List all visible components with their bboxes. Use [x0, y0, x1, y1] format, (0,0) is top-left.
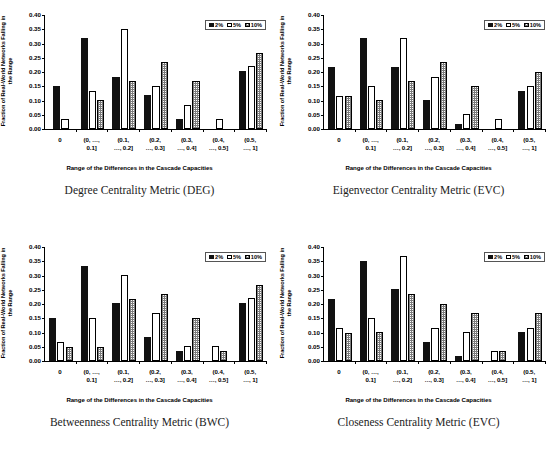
bar-groups	[45, 247, 267, 361]
bar	[121, 29, 128, 129]
bar	[49, 318, 56, 361]
gray-hatched-square-icon	[524, 255, 529, 260]
x-tick-label-line2: 0.1]	[76, 144, 108, 152]
bar	[345, 333, 352, 362]
y-tick-label: 0.00	[308, 126, 320, 132]
bar-group	[387, 15, 419, 129]
x-tick-label-line1: 0	[58, 368, 61, 375]
bar	[239, 71, 246, 129]
bar	[192, 81, 199, 129]
y-tick-label: 0.30	[308, 40, 320, 46]
x-tick-label: (0.1,…, 0.2]	[386, 368, 418, 384]
x-tick-label-line1: (0.1,	[117, 368, 129, 375]
x-tick-label: (0.4,…, 0.5]	[482, 136, 514, 152]
bar	[518, 91, 525, 129]
chart-caption: Closeness Centrality Metric (EVC)	[279, 416, 558, 428]
x-tick-label-line2: …, 0.5]	[203, 376, 235, 384]
chart-panel-evc: Fraction of Real-World Networks Falling …	[279, 0, 558, 232]
y-axis-ticks: 0.000.050.100.150.200.250.300.350.40	[296, 15, 320, 129]
bar-group	[324, 15, 356, 129]
x-tick-label-line1: (0.4,	[213, 136, 225, 143]
y-tick-mark	[321, 361, 324, 362]
bar	[535, 72, 542, 129]
bar	[376, 332, 383, 361]
x-tick-label-line2: …, 0.4]	[171, 144, 203, 152]
x-axis-title: Range of the Differences in the Cascade …	[0, 396, 279, 403]
x-tick-label-line1: (0.5,	[244, 368, 256, 375]
bar-group	[356, 15, 388, 129]
bar-group	[514, 247, 546, 361]
bar-group	[419, 247, 451, 361]
x-axis-ticks: 0(0, …,0.1](0.1,…, 0.2](0.2,…, 0.3](0.3,…	[44, 368, 266, 384]
x-tick-label-line1: (0.3,	[181, 368, 193, 375]
bar	[455, 356, 462, 361]
x-tick-label-line2: …, 0.2]	[386, 144, 418, 152]
x-tick-label-line1: (0.2,	[149, 368, 161, 375]
bar	[161, 294, 168, 361]
bar	[360, 38, 367, 129]
legend-label: 2%	[494, 254, 502, 260]
bar-group	[356, 247, 388, 361]
x-tick-label-line1: (0.5,	[523, 136, 535, 143]
bar	[53, 86, 60, 129]
bar	[81, 38, 88, 129]
y-tick-label: 0.05	[308, 112, 320, 118]
bar	[66, 347, 73, 361]
x-tick-label: (0.5,…, 1]	[513, 368, 545, 384]
bar-group	[451, 247, 483, 361]
bar	[408, 294, 415, 361]
bar	[61, 119, 68, 129]
y-tick-label: 0.10	[29, 329, 41, 335]
x-tick-label-line1: (0.2,	[428, 368, 440, 375]
x-tick-label: 0	[44, 368, 76, 384]
bar	[144, 95, 151, 129]
x-tick-label: (0.1,…, 0.2]	[107, 368, 139, 384]
y-tick-label: 0.25	[29, 55, 41, 61]
x-tick-label-line1: (0, …,	[84, 136, 100, 143]
y-tick-label: 0.25	[308, 55, 320, 61]
bar	[152, 86, 159, 129]
bar	[144, 337, 151, 361]
bar	[455, 124, 462, 129]
bar-group	[451, 15, 483, 129]
bar-group	[235, 247, 267, 361]
x-tick-label: (0.5,…, 1]	[234, 136, 266, 152]
legend-entry: 10%	[245, 254, 262, 260]
legend-entry: 10%	[524, 254, 541, 260]
x-tick-label-line1: (0.1,	[396, 368, 408, 375]
x-tick-label-line2: …, 0.2]	[386, 376, 418, 384]
legend-entry: 2%	[488, 254, 502, 260]
bar-groups	[324, 15, 546, 129]
bar-group	[172, 15, 204, 129]
x-tick-label-line1: (0.1,	[117, 136, 129, 143]
legend-label: 5%	[233, 254, 241, 260]
bar	[336, 96, 343, 129]
bar	[256, 53, 263, 129]
bar	[463, 332, 470, 361]
y-tick-label: 0.15	[308, 315, 320, 321]
x-tick-label: (0.3,…, 0.4]	[171, 368, 203, 384]
x-tick-label-line1: (0.3,	[181, 136, 193, 143]
y-tick-label: 0.00	[308, 358, 320, 364]
bar	[89, 318, 96, 361]
x-tick-label-line2: 0.1]	[76, 376, 108, 384]
bar	[431, 328, 438, 361]
bar	[112, 303, 119, 361]
y-tick-label: 0.25	[29, 287, 41, 293]
x-tick-label-line2: …, 1]	[513, 144, 545, 152]
legend-entry: 5%	[227, 254, 241, 260]
x-tick-label: (0.3,…, 0.4]	[450, 368, 482, 384]
x-tick-label-line2: 0.1]	[355, 144, 387, 152]
x-tick-label-line1: (0.5,	[244, 136, 256, 143]
y-tick-label: 0.30	[308, 272, 320, 278]
x-axis-title: Range of the Differences in the Cascade …	[279, 164, 558, 171]
plot-area: Fraction of Real-World Networks Falling …	[0, 8, 279, 158]
legend-entry: 2%	[488, 22, 502, 28]
black-filled-square-icon	[209, 255, 214, 260]
bar	[368, 318, 375, 361]
x-tick-label-line2: …, 1]	[234, 376, 266, 384]
bar	[184, 105, 191, 129]
x-tick-label-line2: …, 0.4]	[450, 144, 482, 152]
x-tick-label-line1: (0.4,	[492, 368, 504, 375]
bar	[408, 81, 415, 129]
